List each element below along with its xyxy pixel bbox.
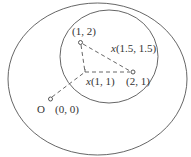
dashed-line-p12-to-x11 xyxy=(81,45,85,72)
inner-circle xyxy=(60,10,158,103)
point-marker-p21 xyxy=(131,70,135,74)
label-p21: (2, 1) xyxy=(126,75,150,88)
point-marker-p12 xyxy=(79,41,83,45)
label-origin: O xyxy=(37,103,45,115)
point-marker-p00 xyxy=(49,97,53,101)
label-x11: x(1, 1) xyxy=(85,75,115,88)
dashed-line-origin-to-x11 xyxy=(52,72,85,97)
label-p12: (1, 2) xyxy=(72,25,96,38)
label-p00: (0, 0) xyxy=(55,103,79,116)
diagram-canvas: (1, 2) x(1.5, 1.5) x(1, 1) (2, 1) O (0, … xyxy=(0,0,191,157)
label-x11-coord: (1, 1) xyxy=(91,75,115,88)
label-x1515: x(1.5, 1.5) xyxy=(110,42,157,55)
label-x1515-coord: (1.5, 1.5) xyxy=(116,42,157,55)
